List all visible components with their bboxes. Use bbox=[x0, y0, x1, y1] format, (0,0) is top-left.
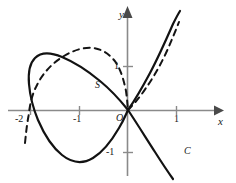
curve-label-s: S bbox=[95, 80, 100, 90]
x-axis-arrow-icon bbox=[214, 106, 224, 116]
math-figure: y x O -2 -1 1 1 -1 S C bbox=[0, 0, 236, 183]
origin-label: O bbox=[116, 113, 123, 123]
x-axis-label: x bbox=[218, 116, 223, 127]
plot-canvas bbox=[0, 0, 236, 183]
curve-c-solid bbox=[29, 11, 180, 179]
y-tick-label--1: -1 bbox=[106, 147, 114, 157]
y-axis-label: y bbox=[119, 9, 124, 20]
y-tick-label-1: 1 bbox=[114, 61, 119, 71]
curve-s-loop-path bbox=[25, 48, 128, 143]
curve-label-c: C bbox=[184, 146, 191, 156]
x-tick-label--2: -2 bbox=[15, 114, 23, 124]
y-axis-arrow-icon bbox=[123, 6, 133, 18]
x-tick-label--1: -1 bbox=[73, 114, 81, 124]
axes-group bbox=[8, 6, 224, 176]
x-tick-label-1: 1 bbox=[174, 114, 179, 124]
curve-c-lower-branch-path bbox=[128, 110, 173, 179]
curve-c-upper-branch-path bbox=[128, 11, 180, 110]
